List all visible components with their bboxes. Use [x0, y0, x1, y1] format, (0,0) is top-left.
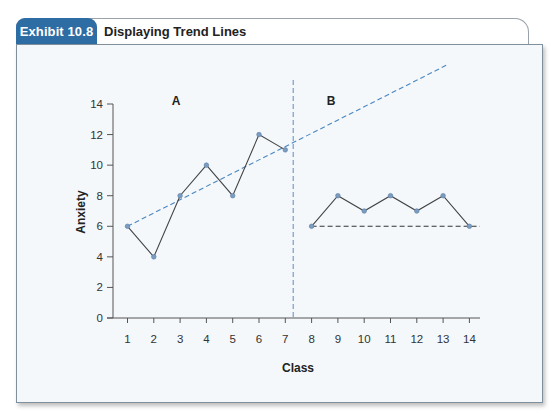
y-tick-label: 10 [90, 159, 103, 171]
x-tick-label: 5 [229, 333, 235, 345]
x-tick-label: 2 [151, 333, 157, 345]
data-point-marker [257, 132, 262, 137]
data-series [125, 132, 472, 259]
y-axis-title: Anxiety [74, 190, 88, 234]
data-point-marker [415, 209, 420, 214]
data-point-marker [362, 209, 367, 214]
x-tick-label: 6 [256, 333, 262, 345]
line-chart: 024681012141234567891011121314 ABClassAn… [0, 0, 556, 418]
x-tick-label: 9 [335, 333, 341, 345]
x-tick-label: 8 [308, 333, 314, 345]
data-point-marker [230, 193, 235, 198]
y-tick-label: 4 [97, 251, 104, 263]
x-tick-label: 13 [437, 333, 450, 345]
data-point-marker [467, 224, 472, 229]
y-tick-label: 0 [97, 312, 103, 324]
data-point-marker [204, 163, 209, 168]
y-tick-label: 8 [97, 190, 103, 202]
series-line-a [128, 135, 286, 257]
x-tick-label: 1 [124, 333, 130, 345]
y-tick-label: 12 [90, 129, 103, 141]
x-tick-label: 4 [203, 333, 210, 345]
data-point-marker [309, 224, 314, 229]
data-point-marker [283, 148, 288, 153]
y-tick-label: 14 [90, 98, 103, 110]
x-axis-title: Class [282, 361, 314, 375]
x-tick-label: 11 [385, 333, 397, 345]
x-tick-label: 14 [463, 333, 476, 345]
x-tick-label: 12 [410, 333, 423, 345]
series-line-b [312, 196, 470, 227]
axis-ticks: 024681012141234567891011121314 [90, 98, 476, 345]
x-tick-label: 10 [358, 333, 371, 345]
data-point-marker [336, 193, 341, 198]
x-tick-label: 3 [177, 333, 183, 345]
data-point-marker [152, 255, 157, 260]
data-point-marker [441, 193, 446, 198]
phase-label-b: B [327, 94, 336, 108]
x-tick-label: 7 [282, 333, 288, 345]
y-tick-label: 2 [97, 281, 103, 293]
trend-lines [128, 64, 480, 226]
y-tick-label: 6 [97, 220, 103, 232]
data-point-marker [125, 224, 130, 229]
data-point-marker [388, 193, 393, 198]
data-point-marker [178, 193, 183, 198]
phase-label-a: A [172, 94, 181, 108]
